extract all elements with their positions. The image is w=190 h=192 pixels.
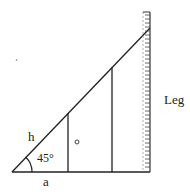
circle-marker	[75, 140, 79, 144]
leg-label: Leg	[164, 92, 185, 107]
ruler-leg	[143, 12, 150, 172]
angle-label: 45°	[37, 151, 54, 165]
angle-arc	[26, 157, 33, 172]
stray-mark	[16, 59, 17, 61]
base-label: a	[43, 174, 49, 189]
triangle-diagram: h 45° a Leg	[0, 0, 190, 192]
hypotenuse-line	[12, 28, 150, 172]
hypotenuse-label: h	[28, 129, 35, 144]
